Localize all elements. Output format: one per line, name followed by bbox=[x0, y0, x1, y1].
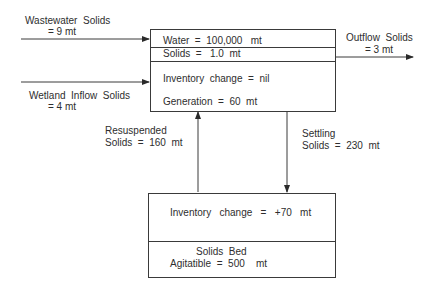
generation-text: Generation = 60 mt bbox=[163, 96, 257, 108]
resuspended-label: Resuspended bbox=[105, 125, 167, 137]
resuspended-value: Solids = 160 mt bbox=[105, 137, 183, 149]
water-column-divider-2 bbox=[151, 61, 335, 62]
solids-bed-divider bbox=[149, 241, 335, 242]
settling-label: Settling bbox=[302, 128, 335, 140]
outflow-solids-label: Outflow Solids bbox=[346, 32, 413, 44]
bed-inventory-change-text: Inventory change = +70 mt bbox=[170, 207, 311, 219]
water-solids-text: Solids = 1.0 mt bbox=[163, 48, 241, 60]
agitatible-text: Agitatible = 500 mt bbox=[170, 258, 267, 270]
settling-value: Solids = 230 mt bbox=[302, 140, 380, 152]
outflow-solids-value: = 3 mt bbox=[365, 44, 393, 56]
solids-bed-title: Solids Bed bbox=[196, 246, 247, 258]
wastewater-solids-value: = 9 mt bbox=[48, 26, 76, 38]
water-inventory-change-text: Inventory change = nil bbox=[163, 73, 269, 85]
water-volume-text: Water = 100,000 mt bbox=[163, 35, 262, 47]
wetland-inflow-solids-value: = 4 mt bbox=[48, 101, 76, 113]
wetland-inflow-solids-label: Wetland Inflow Solids bbox=[29, 90, 130, 102]
